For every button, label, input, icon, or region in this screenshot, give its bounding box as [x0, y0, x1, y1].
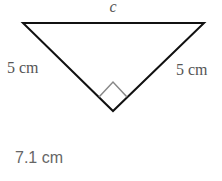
hypotenuse-label: c — [109, 0, 116, 15]
triangle-diagram: c 5 cm 5 cm — [0, 0, 222, 140]
right-angle-marker — [99, 82, 127, 97]
answer-text: 7.1 cm — [15, 149, 63, 167]
left-leg-label: 5 cm — [7, 59, 39, 76]
right-leg-label: 5 cm — [176, 61, 208, 78]
